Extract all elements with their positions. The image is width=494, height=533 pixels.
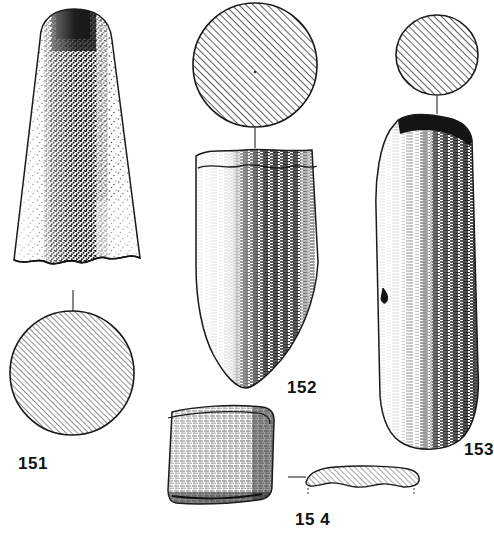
figure-153-cross-section bbox=[396, 15, 478, 95]
artefact-plate-drawing bbox=[0, 0, 494, 533]
artefact-plate: 151 152 153 15 4 bbox=[0, 0, 494, 533]
figure-152-cross-section bbox=[193, 3, 317, 127]
figure-152-section-centre-dot bbox=[254, 71, 257, 74]
figure-label-154: 15 4 bbox=[295, 511, 330, 528]
figure-label-151: 151 bbox=[18, 455, 48, 472]
figure-154-plan bbox=[164, 400, 280, 510]
figure-151-section-circle bbox=[10, 311, 134, 435]
figure-153-elevation bbox=[372, 108, 484, 456]
figure-153-section-circle bbox=[396, 15, 478, 95]
figure-151-cross-section bbox=[10, 311, 134, 435]
figure-label-153: 153 bbox=[464, 441, 494, 458]
figure-label-152: 152 bbox=[287, 379, 317, 396]
figure-152-section-circle bbox=[193, 3, 317, 127]
